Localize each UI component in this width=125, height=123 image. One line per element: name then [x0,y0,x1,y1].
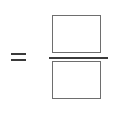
numerator-input-box[interactable] [52,15,101,53]
equals-bar-bottom [11,59,26,61]
denominator-input-box[interactable] [52,61,101,99]
equals-bar-top [11,53,26,55]
fraction-bar [49,57,108,59]
